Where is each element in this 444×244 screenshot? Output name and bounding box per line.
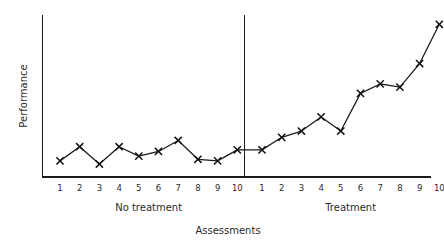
- x-tick-label: 6: [156, 183, 161, 193]
- x-tick-label: 1: [259, 183, 264, 193]
- x-tick-label: 4: [116, 183, 121, 193]
- data-point-marker: [436, 21, 443, 28]
- x-tick-label: 1: [57, 183, 62, 193]
- performance-series-line: [60, 24, 439, 164]
- data-point-marker: [56, 157, 63, 164]
- phase-label-no-treatment: No treatment: [115, 202, 182, 213]
- x-tick-label: 10: [232, 183, 243, 193]
- data-point-marker: [175, 137, 182, 144]
- x-tick-label: 5: [338, 183, 343, 193]
- y-axis-title: Performance: [18, 64, 29, 127]
- x-tick-label: 8: [195, 183, 200, 193]
- x-tick-label: 3: [97, 183, 102, 193]
- x-tick-label: 9: [417, 183, 422, 193]
- data-point-marker: [116, 143, 123, 150]
- x-tick-label: 6: [358, 183, 363, 193]
- data-point-markers: [56, 21, 443, 168]
- phase-label-treatment: Treatment: [324, 202, 376, 213]
- x-tick-label: 3: [299, 183, 304, 193]
- data-point-marker: [318, 113, 325, 120]
- chart-svg: 1234567891012345678910 No treatment Trea…: [0, 0, 444, 244]
- x-tick-label: 7: [175, 183, 180, 193]
- data-point-marker: [298, 127, 305, 134]
- data-point-marker: [96, 160, 103, 167]
- x-tick-label: 8: [397, 183, 402, 193]
- x-axis-title: Assessments: [195, 225, 260, 236]
- data-point-marker: [357, 90, 364, 97]
- data-point-marker: [278, 134, 285, 141]
- data-point-marker: [76, 143, 83, 150]
- x-tick-label: 5: [136, 183, 141, 193]
- x-tick-label: 9: [215, 183, 220, 193]
- x-tick-labels: 1234567891012345678910: [57, 183, 444, 193]
- data-point-marker: [416, 60, 423, 67]
- x-tick-label: 2: [77, 183, 82, 193]
- x-tick-label: 4: [318, 183, 323, 193]
- x-tick-label: 2: [279, 183, 284, 193]
- chart-figure: 1234567891012345678910 No treatment Trea…: [0, 0, 444, 244]
- data-point-marker: [337, 127, 344, 134]
- x-tick-label: 7: [377, 183, 382, 193]
- x-tick-label: 10: [434, 183, 444, 193]
